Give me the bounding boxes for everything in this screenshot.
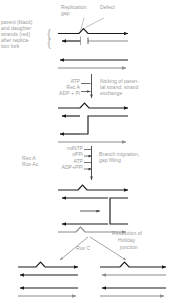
replication-gap-label-line-2: gap xyxy=(61,11,70,17)
step3-result-line-3: junction xyxy=(120,245,138,251)
parent-strand-top-with-defect xyxy=(58,29,128,34)
step1-product-adp: ADP + Pi xyxy=(48,91,80,97)
recombination-diagram-figure: parent (black) and daughter strands (red… xyxy=(0,0,179,304)
step3-result-line-2: Holiday xyxy=(118,238,135,244)
p3-junction-right-crossover xyxy=(110,198,128,224)
panel-4-right-product xyxy=(100,262,166,296)
step2-result-line-2: gap filling xyxy=(99,158,121,164)
step2-product-nppi: nPPi xyxy=(52,152,83,158)
defect-pointer xyxy=(86,18,105,28)
p3-parent-strand-top xyxy=(58,185,128,190)
step2-product-adppp: ADP+PPi xyxy=(47,165,83,171)
step3-enzyme-ruvc: Ruv C xyxy=(76,246,90,252)
step1-result-line-3: exchange xyxy=(100,91,122,97)
panel-1-replicated-duplex xyxy=(58,29,128,69)
step3-result-line-1: Resolution of xyxy=(112,231,142,237)
panel-2-strand-exchange xyxy=(58,103,128,142)
p4l-top-strand xyxy=(18,262,78,267)
defect-label: Defect xyxy=(100,5,115,11)
diagram-canvas xyxy=(0,0,179,304)
p2-parent-strand-top xyxy=(58,103,128,108)
p4r-top-strand xyxy=(100,262,166,267)
panel-4-left-product xyxy=(18,262,78,296)
panel-3-holliday-junction xyxy=(58,185,128,232)
brace-bottom-duplex: { xyxy=(46,36,52,49)
legend-line-5: tion fork xyxy=(1,44,19,50)
step2-enzyme-ruvac: Ruv Ac xyxy=(22,162,38,168)
p2-crossover-strand xyxy=(80,116,128,134)
